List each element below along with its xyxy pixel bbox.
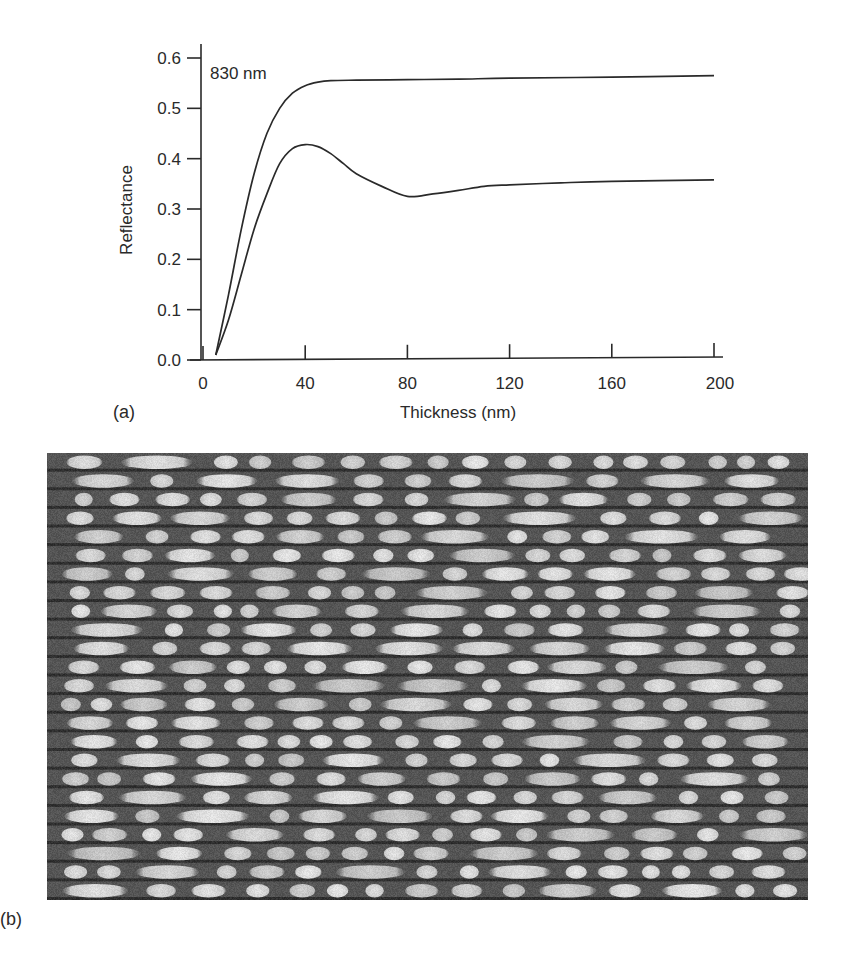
y-tick-label: 0.4 [157, 150, 181, 169]
reflectance-chart: 0.00.10.20.30.40.50.604080120160200 830 … [0, 0, 847, 450]
x-tick-label: 120 [495, 374, 523, 393]
x-axis-label: Thickness (nm) [400, 403, 516, 422]
x-axis-line [190, 357, 723, 360]
y-tick-label: 0.2 [157, 250, 181, 269]
micrograph-image [47, 453, 808, 900]
y-tick-label: 0.3 [157, 200, 181, 219]
lower-reflectance-curve [216, 144, 714, 354]
chart-curves [216, 76, 714, 355]
x-tick-label: 160 [598, 374, 626, 393]
y-tick-label: 0.5 [157, 99, 181, 118]
x-tick-label: 80 [398, 374, 417, 393]
figure: 0.00.10.20.30.40.50.604080120160200 830 … [0, 0, 847, 966]
y-tick-label: 0.1 [157, 301, 181, 320]
wavelength-annotation: 830 nm [210, 64, 267, 83]
x-tick-label: 0 [198, 374, 207, 393]
upper-reflectance-curve [216, 76, 714, 355]
panel-b-label: (b) [0, 909, 22, 930]
y-tick-label: 0.0 [157, 351, 181, 370]
x-tick-label: 40 [296, 374, 315, 393]
y-tick-label: 0.6 [157, 49, 181, 68]
panel-a-label: (a) [113, 402, 135, 423]
x-tick-label: 200 [706, 374, 734, 393]
y-axis-label: Reflectance [117, 165, 136, 255]
